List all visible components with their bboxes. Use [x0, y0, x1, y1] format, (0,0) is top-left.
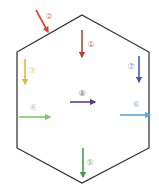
arrow-6-label: ⑥ [132, 100, 139, 109]
arrow-8: ⑧ [70, 89, 95, 102]
arrow-5: ⑤ [83, 148, 94, 177]
arrow-1: ① [82, 30, 95, 57]
arrow-2: ② [36, 10, 53, 32]
arrow-3-label: ③ [28, 66, 35, 75]
arrow-4: ④ [19, 103, 50, 117]
hexagon-arrow-diagram: ①②③④⑤⑥⑦⑧ [0, 0, 159, 191]
arrow-6: ⑥ [120, 100, 150, 115]
arrow-8-label: ⑧ [78, 89, 85, 98]
arrow-group: ①②③④⑤⑥⑦⑧ [19, 10, 150, 177]
arrow-3: ③ [25, 59, 36, 84]
arrow-2-label: ② [45, 12, 52, 21]
arrow-5-label: ⑤ [86, 158, 93, 167]
arrow-7: ⑦ [127, 56, 139, 82]
arrow-7-label: ⑦ [127, 62, 134, 71]
arrow-1-label: ① [87, 40, 94, 49]
arrow-4-label: ④ [29, 103, 36, 112]
